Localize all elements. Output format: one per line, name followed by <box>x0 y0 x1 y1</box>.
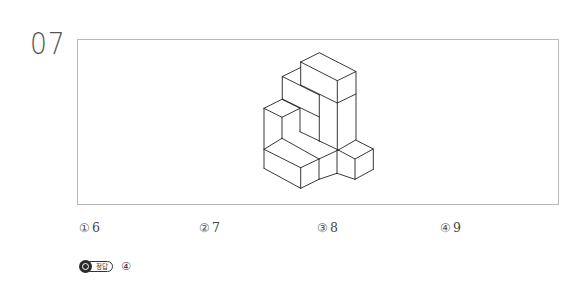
choice-2[interactable]: ②7 <box>199 220 220 235</box>
question-number: 07 <box>30 28 66 59</box>
choice-marker: ④ <box>440 221 451 235</box>
target-icon <box>79 260 92 273</box>
choice-value: 6 <box>92 220 100 235</box>
answer-badge-label: 정답 <box>89 261 113 272</box>
choice-marker: ① <box>79 221 90 235</box>
choice-4[interactable]: ④9 <box>440 220 461 235</box>
answer-row: 정답 ④ <box>79 259 131 274</box>
figure-frame <box>77 39 559 205</box>
answer-badge: 정답 <box>79 260 113 273</box>
choice-1[interactable]: ①6 <box>79 220 100 235</box>
choice-marker: ② <box>199 221 210 235</box>
choice-3[interactable]: ③8 <box>317 220 338 235</box>
answer-value: ④ <box>121 260 131 273</box>
choice-value: 9 <box>453 220 461 235</box>
choice-marker: ③ <box>317 221 328 235</box>
choice-value: 7 <box>212 220 220 235</box>
choice-value: 8 <box>330 220 338 235</box>
